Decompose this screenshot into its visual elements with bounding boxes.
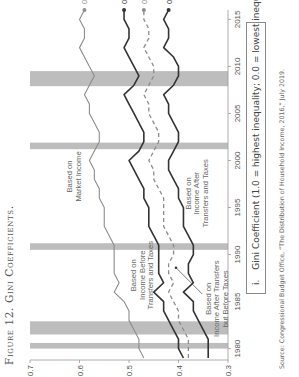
annotation-arrow-head [175, 266, 178, 269]
y-tick-label: 0.6 [76, 364, 85, 376]
annotation-before-transfers: Based onIncome BeforeTransfers and Taxes [129, 241, 155, 310]
series-end-dot [82, 8, 86, 12]
recession-band [30, 143, 228, 150]
annotation-line: Market Income [74, 151, 83, 201]
legend-note-number: i. [251, 280, 261, 285]
x-tick-label: 1985 [233, 292, 242, 310]
source-citation: Source: Congressional Budget Office, “Th… [278, 0, 285, 369]
annotation-market-income: Based onMarket Income [65, 151, 83, 201]
x-tick-label: 2005 [233, 104, 242, 122]
recession-band [30, 71, 228, 86]
series-end-dot [167, 8, 171, 12]
annotation-line: Transfers and Taxes [201, 159, 210, 228]
annotation-line: but Before Taxes [221, 270, 230, 327]
recession-band [30, 343, 228, 349]
annotation-line: Transfers and Taxes [146, 241, 155, 310]
x-tick-label: 2010 [233, 57, 242, 75]
legend-note-text: Gini Coefficient (1.0 = highest inequali… [251, 0, 261, 270]
recession-band [30, 321, 228, 334]
series-line-market [80, 10, 144, 358]
series-end-label: 0.59 [80, 0, 89, 4]
y-tick-label: 0.5 [125, 364, 134, 376]
x-tick-label: 1995 [233, 198, 242, 216]
series-end-dot [142, 8, 146, 12]
x-tick-label: 1990 [233, 245, 242, 263]
y-tick-label: 0.7 [26, 364, 35, 376]
y-tick-label: 0.4 [175, 364, 184, 376]
series-end-label: 0.51 [120, 0, 129, 4]
legend-note-box: i. Gini Coefficient (1.0 = highest inequ… [246, 22, 266, 294]
y-tick-label: 0.3 [224, 364, 233, 376]
series-end-dot [122, 8, 126, 12]
figure-canvas: Figure 12. Gini Coefficients. 0.30.40.50… [0, 0, 299, 377]
annotation-after-transfers-taxes: Based onIncome AfterTransfers and Taxes [184, 159, 210, 228]
x-tick-label: 2000 [233, 151, 242, 169]
recession-band [30, 243, 228, 250]
x-tick-label: 1980 [233, 339, 242, 357]
series-end-label: 0.42 [165, 0, 174, 4]
x-tick-label: 2015 [233, 10, 242, 28]
series-end-label: 0.47 [140, 0, 149, 4]
